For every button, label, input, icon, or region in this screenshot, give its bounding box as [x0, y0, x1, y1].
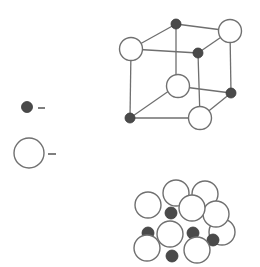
large-ion [134, 235, 160, 261]
large-ion [157, 221, 183, 247]
large-ion [189, 107, 212, 130]
legend-large-ion [14, 138, 56, 168]
small-ion [125, 113, 135, 123]
space-filling-model [134, 180, 235, 263]
large-ion [120, 38, 143, 61]
small-ion-icon [22, 102, 33, 113]
large-ion [184, 237, 210, 263]
small-ion [166, 250, 178, 262]
large-ion [203, 201, 229, 227]
large-ion [219, 20, 242, 43]
small-ion [165, 207, 177, 219]
large-ion [167, 75, 190, 98]
crystal-structure-diagram [0, 0, 260, 267]
legend-small-ion [22, 102, 46, 113]
legend [14, 102, 56, 169]
small-ion [193, 48, 203, 58]
large-ion [179, 195, 205, 221]
large-ion-icon [14, 138, 44, 168]
large-ion [135, 192, 161, 218]
unit-cell-bonds [130, 24, 231, 118]
small-ion [171, 19, 181, 29]
small-ion [226, 88, 236, 98]
